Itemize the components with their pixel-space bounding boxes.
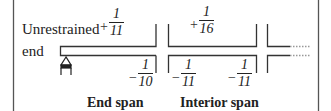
end-span-positive-sign: + xyxy=(100,19,108,35)
interior-negative-left-sign: − xyxy=(172,70,180,86)
pin-support-icon xyxy=(61,57,71,75)
interior-positive-sign: + xyxy=(190,17,198,33)
interior-span-label: Interior span xyxy=(180,95,259,110)
interior-positive-moment: 1 16 xyxy=(199,5,214,36)
interior-negative-right-sign: − xyxy=(228,70,236,86)
unrestrained-label: Unrestrained xyxy=(22,22,99,37)
end-span-negative-sign: − xyxy=(129,70,137,86)
next-span-beam xyxy=(268,24,311,73)
interior-negative-right-moment: 1 11 xyxy=(237,58,252,89)
beam-lines xyxy=(0,0,331,111)
end-span-negative-moment: 1 10 xyxy=(138,58,153,89)
moment-coefficient-diagram: Unrestrained end + 1 11 − 1 10 + 1 16 − … xyxy=(0,0,331,111)
interior-negative-left-moment: 1 11 xyxy=(181,58,196,89)
end-span-label: End span xyxy=(87,95,143,110)
end-span-positive-moment: 1 11 xyxy=(109,7,124,38)
end-label: end xyxy=(22,44,44,59)
